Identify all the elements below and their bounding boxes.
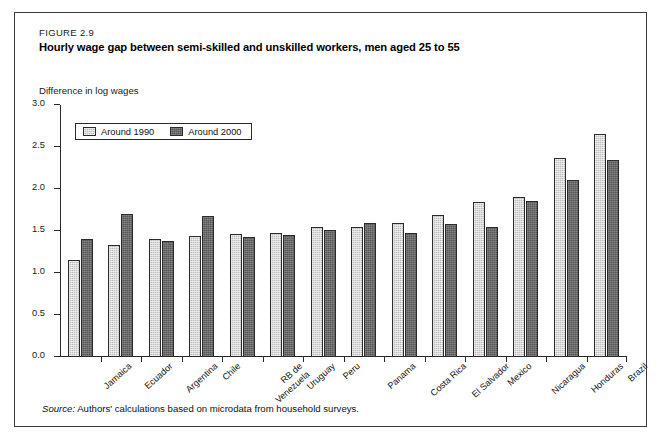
bar-around-1990: [230, 234, 242, 357]
x-axis-label: Brazil: [626, 361, 650, 384]
chart-plot-area: 0.00.51.01.52.02.53.0: [60, 105, 627, 357]
bar-around-2000: [607, 160, 619, 357]
bar-around-2000: [567, 180, 579, 357]
bar-around-1990: [392, 223, 404, 357]
bar-around-2000: [121, 214, 133, 357]
x-axis-label: Nicaragua: [549, 361, 587, 397]
bar-around-1990: [108, 245, 120, 357]
y-axis-tick: 3.0: [54, 104, 60, 105]
y-axis-tick-label: 1.0: [32, 266, 45, 276]
bar-group: [554, 105, 579, 357]
y-axis-tick-label: 0.5: [32, 308, 45, 318]
x-axis-label: Ecuador: [142, 361, 174, 391]
legend-label: Around 1990: [101, 127, 154, 137]
bar-around-1990: [311, 227, 323, 357]
y-axis-tick-label: 0.0: [32, 350, 45, 360]
bar-group: [392, 105, 417, 357]
bar-group: [594, 105, 619, 357]
bar-group: [189, 105, 214, 357]
bar-around-1990: [594, 134, 606, 357]
bar-group: [230, 105, 255, 357]
y-axis-tick: 2.5: [54, 146, 60, 147]
page-title: Hourly wage gap between semi-skilled and…: [39, 41, 460, 53]
bar-around-1990: [554, 158, 566, 357]
legend-swatch-icon: [170, 127, 183, 136]
x-axis-label: Costa Rica: [429, 361, 469, 399]
source-text: Authors' calculations based on microdata…: [77, 403, 359, 414]
bar-group: [108, 105, 133, 357]
y-axis-line: [60, 105, 61, 357]
legend-item-1: Around 1990: [83, 127, 154, 137]
bar-around-2000: [405, 233, 417, 357]
bar-around-2000: [324, 230, 336, 357]
legend-label: Around 2000: [188, 127, 241, 137]
x-axis-label: Argentina: [184, 361, 220, 395]
bar-around-2000: [162, 241, 174, 357]
chart-canvas: 0.00.51.01.52.02.53.0: [60, 105, 627, 357]
source-label: Source:: [42, 403, 75, 414]
y-axis-tick: 0.0: [54, 356, 60, 357]
legend-item-2: Around 2000: [170, 127, 241, 137]
bar-around-2000: [81, 239, 93, 357]
figure-number: FIGURE 2.9: [39, 27, 94, 38]
y-axis-tick: 0.5: [54, 314, 60, 315]
y-axis-tick-label: 1.5: [32, 224, 45, 234]
bar-around-2000: [364, 223, 376, 357]
bar-around-2000: [283, 235, 295, 357]
bar-around-1990: [351, 227, 363, 357]
y-axis-tick-label: 2.5: [32, 140, 45, 150]
chart-legend: Around 1990Around 2000: [75, 123, 252, 140]
bar-group: [270, 105, 295, 357]
x-axis-label: Honduras: [589, 361, 625, 395]
bar-group: [473, 105, 498, 357]
x-axis-label: Peru: [341, 361, 362, 382]
bar-around-1990: [149, 239, 161, 357]
bar-group: [513, 105, 538, 357]
bar-group: [351, 105, 376, 357]
y-axis-caption: Difference in log wages: [39, 85, 139, 96]
bar-around-2000: [243, 237, 255, 357]
bar-around-2000: [202, 216, 214, 357]
y-axis-tick-label: 3.0: [32, 98, 45, 108]
y-axis-tick: 1.5: [54, 230, 60, 231]
x-axis-label: Jamaica: [102, 361, 134, 391]
source-note: Source: Authors' calculations based on m…: [42, 403, 359, 414]
legend-swatch-icon: [83, 127, 96, 136]
bar-group: [311, 105, 336, 357]
y-axis-tick: 2.0: [54, 188, 60, 189]
x-axis-label: Chile: [220, 361, 242, 383]
x-axis-label: Panama: [385, 361, 417, 391]
bar-around-1990: [270, 233, 282, 357]
bar-around-1990: [513, 197, 525, 357]
bar-around-2000: [486, 227, 498, 357]
x-axis-label: Mexico: [506, 361, 534, 388]
bar-around-2000: [445, 224, 457, 357]
bar-group: [68, 105, 93, 357]
bar-around-1990: [189, 236, 201, 357]
figure-frame: FIGURE 2.9 Hourly wage gap between semi-…: [14, 12, 647, 427]
bar-around-1990: [432, 215, 444, 357]
bar-around-2000: [526, 201, 538, 357]
y-axis-tick: 1.0: [54, 272, 60, 273]
bar-around-1990: [473, 202, 485, 357]
bar-group: [432, 105, 457, 357]
y-axis-tick-label: 2.0: [32, 182, 45, 192]
bar-group: [149, 105, 174, 357]
bar-around-1990: [68, 260, 80, 357]
